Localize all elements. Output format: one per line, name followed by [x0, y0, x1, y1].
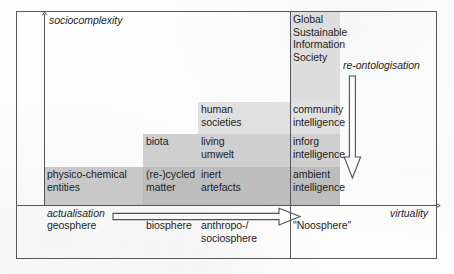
- x-axis-line: [17, 205, 437, 206]
- sociocomplexity-virtuality-diagram: sociocomplexity virtuality actualisation…: [0, 0, 454, 274]
- y-axis-label: sociocomplexity: [49, 14, 122, 27]
- cell-human-societies: human societies: [201, 103, 289, 128]
- re-ontologisation-down-arrow: [340, 75, 366, 180]
- y-axis-arrowhead: [40, 11, 49, 20]
- baseline-cell-noosphere: "Noosphere": [293, 219, 383, 232]
- actualisation-right-arrow: [112, 207, 302, 233]
- y-axis-line: [44, 14, 45, 205]
- cell-inert-artefacts: inert artefacts: [201, 168, 289, 193]
- re-ontologisation-label: re-ontologisation: [343, 59, 420, 72]
- x-axis-arrowhead: [432, 201, 441, 210]
- cell-physico-chemical-entities: physico-chemical entities: [47, 168, 147, 193]
- x-axis-label: virtuality: [390, 207, 428, 220]
- cell-recycled-matter: (re-)cycled matter: [146, 168, 202, 193]
- cell-biota: biota: [146, 135, 202, 148]
- cell-living-umwelt: living umwelt: [201, 135, 289, 160]
- origin-label-actualisation: actualisation: [47, 207, 105, 220]
- gsis-block-text: Global Sustainable Information Society: [293, 13, 353, 63]
